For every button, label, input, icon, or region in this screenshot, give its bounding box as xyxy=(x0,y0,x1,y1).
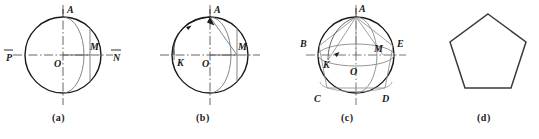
caption-b: (b) xyxy=(196,112,210,123)
arc-arrowhead xyxy=(334,52,340,57)
figure-b: A K O M xyxy=(148,0,283,115)
label-point-B: B xyxy=(299,38,307,49)
label-point-M: M xyxy=(373,43,384,54)
label-point-M: M xyxy=(89,41,100,52)
figure-c: A B E K O M C D xyxy=(294,0,434,115)
label-point-N: N xyxy=(112,52,121,63)
regular-pentagon xyxy=(450,14,526,88)
label-point-K: K xyxy=(176,57,185,68)
label-point-O: O xyxy=(54,58,61,69)
label-point-A: A xyxy=(213,4,221,15)
label-point-A: A xyxy=(358,3,366,14)
chord-AM xyxy=(210,17,237,55)
caption-c: (c) xyxy=(341,112,354,123)
figure-d xyxy=(440,0,539,115)
label-point-A: A xyxy=(66,4,74,15)
caption-d: (d) xyxy=(477,112,491,123)
label-point-P: P xyxy=(6,52,13,63)
label-point-M: M xyxy=(237,41,248,52)
caption-a: (a) xyxy=(52,112,65,123)
label-point-E: E xyxy=(396,38,404,49)
label-point-O: O xyxy=(350,66,357,77)
label-point-D: D xyxy=(381,93,389,104)
arc-arrowhead xyxy=(186,26,192,31)
label-point-O: O xyxy=(202,58,209,69)
figure-a: A P N O M xyxy=(0,0,135,115)
label-point-C: C xyxy=(314,93,321,104)
label-point-K: K xyxy=(322,59,331,70)
figure-sheet: A P N O M xyxy=(0,0,539,139)
compass-arc-AK xyxy=(174,17,210,55)
